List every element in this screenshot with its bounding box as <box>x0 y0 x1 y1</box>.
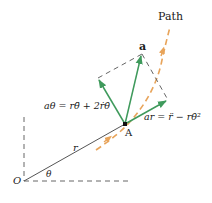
point-a-marker <box>123 122 127 126</box>
origin-label: O <box>13 176 21 186</box>
path-label: Path <box>158 11 183 22</box>
radius-label: r <box>73 143 78 153</box>
path-direction-arrow-upper <box>161 50 163 56</box>
parallelogram-edge-top-right <box>142 54 168 100</box>
a-theta-equation: aθ = rθ̈ + 2ṙθ̇ <box>44 101 110 111</box>
a-r-equation: ar = r̈ − rθ̇² <box>144 112 201 122</box>
a-vector <box>125 56 141 124</box>
acceleration-vector-label: a <box>139 41 146 52</box>
parallelogram-edge-top-left <box>98 54 142 78</box>
angle-theta-label: θ <box>46 170 51 179</box>
point-a-label: A <box>125 128 132 138</box>
